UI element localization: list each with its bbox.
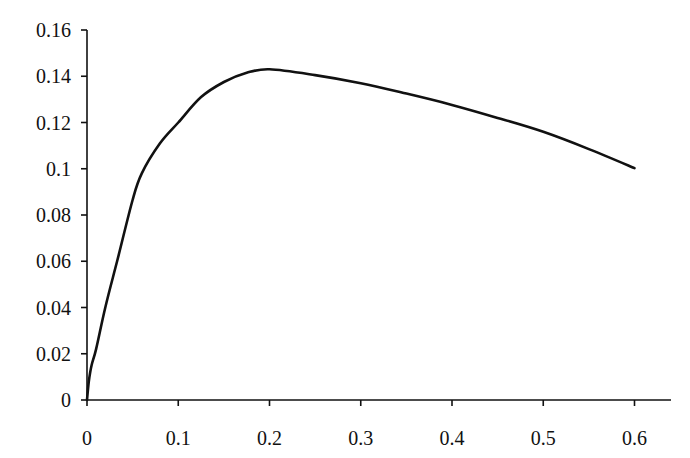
y-tick-label: 0.1 xyxy=(46,158,71,180)
x-tick-label: 0.6 xyxy=(622,427,647,449)
y-tick-label: 0.04 xyxy=(36,297,71,319)
x-axis: 00.10.20.30.40.50.6 xyxy=(82,400,671,449)
y-tick-label: 0.06 xyxy=(36,250,71,272)
data-curve xyxy=(87,69,635,400)
y-tick-label: 0.16 xyxy=(36,19,71,41)
y-tick-label: 0.02 xyxy=(36,343,71,365)
x-tick-label: 0.4 xyxy=(440,427,465,449)
y-axis: 00.020.040.060.080.10.120.140.16 xyxy=(36,19,87,411)
y-tick-label: 0.08 xyxy=(36,204,71,226)
x-tick-label: 0.2 xyxy=(257,427,282,449)
x-tick-label: 0.5 xyxy=(531,427,556,449)
x-tick-label: 0.1 xyxy=(166,427,191,449)
x-tick-label: 0 xyxy=(82,427,92,449)
y-tick-label: 0.14 xyxy=(36,65,71,87)
x-tick-label: 0.3 xyxy=(348,427,373,449)
y-tick-label: 0.12 xyxy=(36,112,71,134)
y-tick-label: 0 xyxy=(61,389,71,411)
line-chart: 00.020.040.060.080.10.120.140.16 00.10.2… xyxy=(0,0,690,458)
